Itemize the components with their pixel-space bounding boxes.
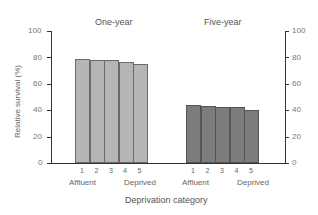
- y-axis-label: Relative survival (%): [13, 65, 22, 138]
- tick-label: 100: [28, 26, 41, 35]
- affluent-label: Affluent: [182, 178, 209, 187]
- tick-label: 40: [33, 105, 42, 114]
- bar-five-year-1: [186, 105, 201, 163]
- x-axis: [51, 163, 286, 164]
- bar-one-year-5: [133, 64, 148, 163]
- bar-one-year-2: [90, 60, 105, 163]
- category-label: 1: [186, 167, 200, 174]
- right-axis: [285, 31, 286, 164]
- deprived-label: Deprived: [237, 178, 269, 187]
- tick-label: 80: [292, 53, 301, 62]
- bar-five-year-5: [244, 110, 259, 163]
- panel-title-five-year: Five-year: [204, 17, 242, 27]
- tick-label: 40: [292, 105, 301, 114]
- bar-five-year-4: [230, 107, 245, 163]
- deprived-label: Deprived: [124, 178, 156, 187]
- category-label: 4: [230, 167, 244, 174]
- tick-label: 0: [38, 158, 42, 167]
- category-label: 3: [215, 167, 229, 174]
- left-axis: [51, 31, 52, 164]
- category-label: 4: [118, 167, 132, 174]
- tick-label: 80: [33, 53, 42, 62]
- category-label: 3: [104, 167, 118, 174]
- tick-label: 20: [292, 132, 301, 141]
- tick-label: 60: [33, 79, 42, 88]
- category-label: 5: [133, 167, 147, 174]
- category-label: 2: [90, 167, 104, 174]
- panel-title-one-year: One-year: [95, 17, 133, 27]
- x-axis-label: Deprivation category: [125, 195, 208, 205]
- affluent-label: Affluent: [69, 178, 96, 187]
- tick-label: 60: [292, 79, 301, 88]
- tick-label: 0: [292, 158, 296, 167]
- category-label: 1: [75, 167, 89, 174]
- bar-one-year-3: [104, 60, 119, 163]
- bar-five-year-2: [201, 106, 216, 163]
- category-label: 5: [244, 167, 258, 174]
- tick-label: 20: [33, 132, 42, 141]
- tick-label: 100: [292, 26, 305, 35]
- bar-one-year-1: [75, 59, 90, 163]
- category-label: 2: [201, 167, 215, 174]
- bar-five-year-3: [215, 107, 230, 163]
- bar-one-year-4: [119, 62, 134, 163]
